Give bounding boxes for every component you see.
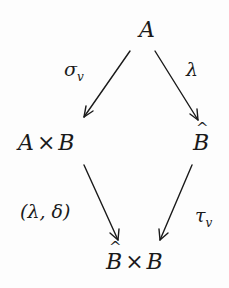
times-symbol: × (34, 130, 58, 155)
label-sigma-v: σv (64, 60, 84, 83)
label-lambda-delta: (λ, δ) (20, 202, 70, 221)
arrow-bhat-to-bhatxb (159, 165, 192, 240)
sigma-subscript: v (77, 70, 84, 84)
node-axb-left: A (18, 130, 34, 155)
tau-symbol: τ (195, 204, 206, 226)
arrow-axb-to-bhatxb (84, 165, 119, 240)
node-a-label: A (139, 17, 155, 42)
node-bhatxb-right: B (147, 249, 163, 274)
node-axb-right: B (58, 130, 74, 155)
node-bhat-times-b: B×B (106, 251, 163, 273)
commutative-diagram: A σv λ A×B B (λ, δ) τv B×B (0, 0, 229, 288)
node-b-hat: B (193, 132, 209, 154)
tau-subscript: v (206, 216, 213, 230)
times-symbol-bottom: × (122, 249, 146, 274)
arrow-a-to-axb (84, 51, 130, 117)
lambda-symbol: λ (186, 58, 198, 80)
node-bhatxb-left: B (106, 251, 122, 273)
node-a-times-b: A×B (18, 132, 75, 154)
lambda-delta-text: (λ, δ) (20, 200, 70, 222)
node-bhat-label: B (193, 132, 209, 154)
label-tau-v: τv (195, 206, 212, 229)
node-a: A (139, 19, 155, 41)
sigma-symbol: σ (64, 58, 77, 80)
label-lambda: λ (186, 60, 198, 79)
